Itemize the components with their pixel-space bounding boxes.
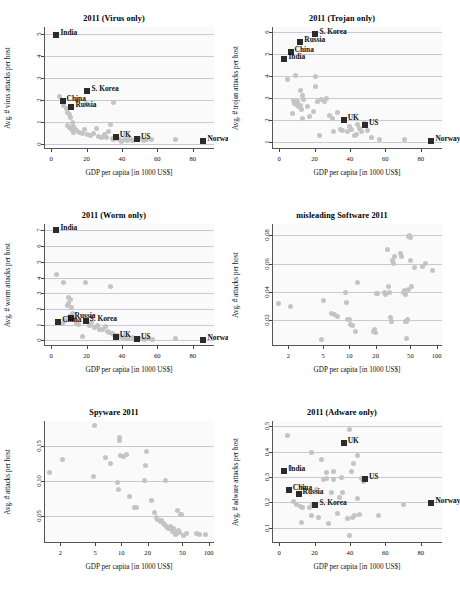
y-tick-label: 6 [263, 31, 270, 34]
chart-panel-virus: 2011 (Virus only)IndiaS. KoreaChinaRussi… [0, 0, 228, 197]
chart-title-virus: 2011 (Virus only) [0, 14, 228, 23]
x-tick-label: 60 [154, 155, 161, 162]
chart-title-worm: 2011 (Worm only) [0, 211, 228, 220]
x-tick-label: 2 [287, 352, 290, 359]
data-point [108, 461, 113, 466]
x-tick-mark [121, 543, 122, 546]
y-tick-label: 0.3 [263, 473, 270, 481]
y-tick-label: 0 [35, 142, 42, 145]
data-point [104, 135, 109, 140]
y-tick-label: 2 [35, 98, 42, 101]
data-point [314, 487, 319, 492]
x-tick-label: 5 [93, 549, 96, 556]
highlighted-point-s-korea [312, 502, 318, 508]
y-tick-label: 5 [35, 260, 42, 263]
data-point [409, 284, 414, 289]
data-point [309, 513, 314, 518]
gridline [272, 54, 442, 55]
x-tick-mark [157, 346, 158, 349]
data-point [349, 127, 354, 132]
x-tick-label: 60 [154, 352, 161, 359]
data-point [355, 453, 360, 458]
gridline [272, 477, 442, 478]
y-tick-label: 3 [35, 292, 42, 295]
data-point [385, 247, 390, 252]
gridline [44, 293, 214, 294]
gridline [44, 56, 214, 57]
y-axis-line [44, 224, 45, 346]
data-point [373, 330, 378, 335]
plot-area-virus: IndiaS. KoreaChinaRussiaUKUSNorway012345… [44, 27, 214, 149]
x-tick-mark [349, 346, 350, 349]
y-tick-label: 0.04 [263, 286, 270, 298]
x-tick-label: 0 [277, 155, 280, 162]
chart-panel-adware: 2011 (Adware only)UKIndiaUSChinaRussiaS.… [228, 394, 456, 591]
x-tick-label: 60 [382, 155, 389, 162]
data-point [324, 96, 329, 101]
data-point [339, 475, 344, 480]
data-point [389, 319, 394, 324]
y-axis-title-misleading-software: Avg. # attacks per host [232, 252, 240, 318]
data-point [357, 512, 362, 517]
data-point [354, 132, 359, 137]
data-point [288, 304, 293, 309]
highlighted-point-norway [428, 138, 434, 144]
data-point [299, 520, 304, 525]
x-tick-label: 0 [277, 549, 280, 556]
data-point [288, 465, 293, 470]
data-point [401, 502, 406, 507]
data-point [61, 280, 66, 285]
data-point [403, 292, 408, 297]
x-tick-mark [87, 149, 88, 152]
x-tick-label: 50 [407, 352, 414, 359]
data-point [355, 496, 360, 501]
data-point [143, 463, 148, 468]
gridline [44, 262, 214, 263]
y-tick-label: 2 [263, 119, 270, 122]
y-tick-label: 0.08 [263, 230, 270, 242]
chart-title-trojan: 2011 (Trojan only) [228, 14, 456, 23]
x-tick-mark [437, 346, 438, 349]
y-tick-label: 3 [35, 76, 42, 79]
data-point [184, 531, 189, 536]
data-point [376, 513, 381, 518]
data-point [144, 449, 149, 454]
x-tick-mark [279, 543, 280, 546]
highlighted-point-russia [296, 491, 302, 497]
x-tick-mark [157, 149, 158, 152]
data-point [340, 490, 345, 495]
y-tick-label: 0.06 [263, 258, 270, 270]
y-tick-label: 1 [35, 323, 42, 326]
plot-surface-worm [44, 224, 214, 346]
plot-surface-adware [272, 421, 442, 543]
data-point [386, 284, 391, 289]
data-point [329, 490, 334, 495]
data-point [412, 265, 417, 270]
data-point [163, 478, 168, 483]
data-point [305, 104, 310, 109]
data-point [142, 478, 147, 483]
x-axis-title-trojan: GDP per capita [in 1000 US$] [272, 169, 442, 177]
data-point [300, 505, 305, 510]
data-point [365, 128, 370, 133]
x-axis-title-virus: GDP per capita [in 1000 US$] [44, 169, 214, 177]
data-point [300, 484, 305, 489]
x-tick-mark [350, 149, 351, 152]
x-axis-title-misleading-software: GDP per capita [in 1000 US$] [272, 366, 442, 374]
x-tick-label: 20 [83, 155, 90, 162]
highlighted-point-india [281, 56, 287, 62]
data-point [54, 272, 59, 277]
chart-panel-trojan: 2011 (Trojan only)S. KoreaRussiaChinaInd… [228, 0, 456, 197]
data-point [352, 513, 357, 518]
highlighted-point-norway [200, 337, 206, 343]
plot-area-trojan: S. KoreaRussiaChinaIndiaUKUSNorway123456… [272, 27, 442, 149]
highlighted-point-norway [428, 500, 434, 506]
y-tick-label: 0.5 [263, 422, 270, 430]
plot-area-spyware: 0.050.100.1525102050100GDP per capita [i… [44, 421, 214, 543]
data-point [106, 129, 111, 134]
gridline [44, 278, 214, 279]
x-tick-mark [315, 543, 316, 546]
x-tick-mark [376, 346, 377, 349]
data-point [317, 133, 322, 138]
data-point [92, 423, 97, 428]
